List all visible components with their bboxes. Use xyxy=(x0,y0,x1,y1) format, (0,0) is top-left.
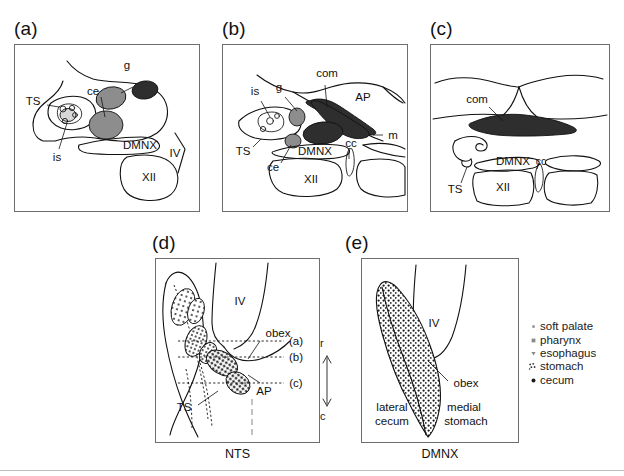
panel-b-label-xii: XII xyxy=(304,173,318,185)
panel-b-label-ap: AP xyxy=(355,91,371,103)
small-dot-marker xyxy=(527,322,540,331)
legend-item: esophagus xyxy=(527,347,622,360)
panel-a-label-xii: XII xyxy=(142,171,156,183)
legend: soft palate pharynx esophagus xyxy=(527,320,622,387)
panel-c-label-ts: TS xyxy=(448,183,463,195)
panel-b-box: com AP g is m TS ce DMNX cc XII xyxy=(222,44,408,212)
panel-c-label: (c) xyxy=(430,18,453,40)
panel-b-label-g: g xyxy=(276,81,282,93)
panel-c-label-dmnx: DMNX xyxy=(496,155,530,167)
panel-d-diagram: IV obex (a) (b) (c) AP TS xyxy=(156,259,319,442)
panel-c-label-com: com xyxy=(466,93,488,105)
panel-e-label-cecum: cecum xyxy=(375,415,409,427)
small-square-marker xyxy=(527,336,540,345)
panel-e-box: IV obex lateral cecum medial stomach xyxy=(361,258,519,443)
panel-e-caption: DMNX xyxy=(361,447,519,461)
panel-b-label-com: com xyxy=(316,67,338,79)
figure-root: (a) xyxy=(0,0,624,476)
panel-a-label-ce: ce xyxy=(87,85,99,97)
panel-d-label-ap: AP xyxy=(256,385,272,397)
legend-item: stomach xyxy=(527,360,622,373)
panel-a-label-ts: TS xyxy=(26,95,41,107)
panel-d-caption: NTS xyxy=(155,447,320,461)
panel-b-label-m: m xyxy=(388,129,398,141)
filled-dot-marker xyxy=(527,376,540,385)
panel-d-level-c: (c) xyxy=(289,377,303,389)
panel-b-diagram: com AP g is m TS ce DMNX cc XII xyxy=(223,45,407,211)
panel-a-label-iv: IV xyxy=(170,147,181,159)
panel-e-label-iv: IV xyxy=(429,317,440,329)
panel-b-label-ce: ce xyxy=(267,161,279,173)
panel-d-label-iv: IV xyxy=(235,295,246,307)
axis-label-rostral: r xyxy=(320,337,324,349)
panel-b-label-dmnx: DMNX xyxy=(298,145,332,157)
panel-b-label-is: is xyxy=(251,85,260,97)
panel-e-diagram: IV obex lateral cecum medial stomach xyxy=(362,259,518,442)
stipple-cluster-marker xyxy=(527,362,540,371)
panel-e-label-obex: obex xyxy=(454,377,479,389)
legend-item-label: pharynx xyxy=(540,334,581,347)
panel-d-label-ts: TS xyxy=(177,401,192,413)
panel-d-box: IV obex (a) (b) (c) AP TS xyxy=(155,258,320,443)
triangle-down-marker xyxy=(527,349,540,358)
axis-label-caudal: c xyxy=(320,410,326,422)
rostrocaudal-axis xyxy=(316,350,338,412)
panel-d-level-a: (a) xyxy=(289,335,303,347)
panel-a-diagram: g ce TS is DMNX IV XII xyxy=(15,45,199,211)
panel-d-label: (d) xyxy=(152,232,176,254)
panel-e-label-stomach: stomach xyxy=(444,415,487,427)
panel-a-label-dmnx: DMNX xyxy=(123,139,157,151)
legend-item: cecum xyxy=(527,374,622,387)
panel-c-diagram: com TS DMNX cc XII xyxy=(431,45,609,211)
panel-d-level-b: (b) xyxy=(289,351,303,363)
panel-c-label-cc: cc xyxy=(536,155,547,167)
panel-c-label-xii: XII xyxy=(496,181,510,193)
panel-b-label: (b) xyxy=(222,18,246,40)
panel-a-label: (a) xyxy=(14,18,38,40)
panel-b-label-ts: TS xyxy=(236,145,251,157)
legend-item: pharynx xyxy=(527,333,622,346)
legend-item: soft palate xyxy=(527,320,622,333)
legend-item-label: esophagus xyxy=(540,347,596,360)
legend-item-label: stomach xyxy=(540,360,583,373)
panel-c-box: com TS DMNX cc XII xyxy=(430,44,610,212)
legend-item-label: soft palate xyxy=(540,320,593,333)
panel-d-label-obex: obex xyxy=(266,327,291,339)
panel-e-label-lateral: lateral xyxy=(376,401,407,413)
panel-a-label-g: g xyxy=(124,59,130,71)
legend-item-label: cecum xyxy=(540,374,574,387)
panel-e-label-medial: medial xyxy=(447,401,481,413)
panel-e-label: (e) xyxy=(345,232,369,254)
panel-a-label-is: is xyxy=(53,151,62,163)
panel-b-label-cc: cc xyxy=(345,137,357,149)
bottom-divider xyxy=(0,470,624,471)
panel-a-box: g ce TS is DMNX IV XII xyxy=(14,44,200,212)
